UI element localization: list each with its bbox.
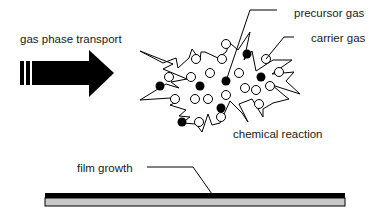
carrier-gas-label: carrier gas	[311, 32, 366, 44]
chemical-reaction-label: chemical reaction	[233, 128, 322, 140]
transport-arrow-icon	[20, 50, 114, 97]
precursor-gas-label: precursor gas	[294, 7, 365, 19]
carrier-gas-leader-line	[266, 37, 294, 59]
substrate	[45, 198, 345, 206]
film-growth-leader-line	[147, 167, 212, 194]
gas-phase-transport-label: gas phase transport	[20, 33, 122, 45]
substrate-with-film	[45, 193, 345, 206]
film-growth-label: film growth	[77, 162, 133, 174]
deposited-film	[45, 193, 345, 198]
cvd-diagram: gas phase transport precursor gas carrie…	[0, 0, 380, 221]
